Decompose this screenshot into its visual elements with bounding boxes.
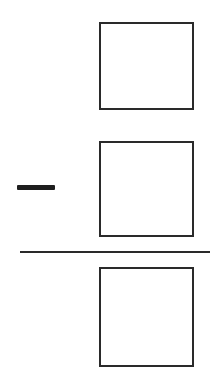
- minuend-input-box[interactable]: [99, 22, 194, 110]
- minus-icon: [17, 185, 55, 190]
- answer-divider-line: [20, 251, 210, 253]
- subtrahend-input-box[interactable]: [99, 141, 194, 237]
- answer-input-box[interactable]: [99, 267, 194, 367]
